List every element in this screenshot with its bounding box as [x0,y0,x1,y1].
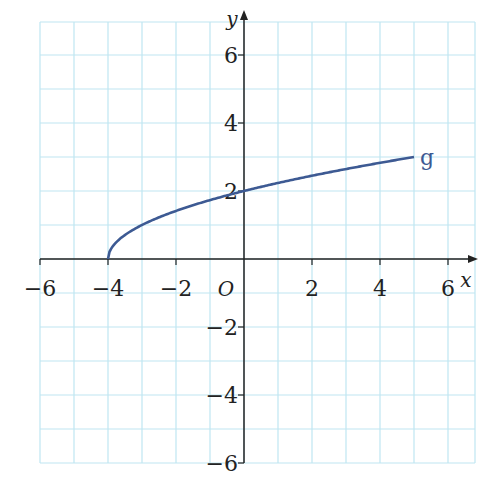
y-tick-label: −2 [206,315,238,340]
x-axis-arrow-icon [468,255,478,263]
y-tick-label: −6 [206,451,238,476]
origin-label: O [218,277,234,301]
y-tick-label: 4 [224,111,238,136]
y-tick-label: 6 [224,43,238,68]
y-axis-arrow-icon [240,10,248,20]
y-tick-label: −4 [206,383,238,408]
y-tick-label: 2 [224,179,238,204]
x-tick-label: 2 [305,276,319,301]
function-graph: −6−4−2246−6−4−2246Oxyg [0,0,483,485]
x-tick-label: −2 [160,276,192,301]
y-axis-label: y [225,7,238,31]
x-axis-label: x [460,268,471,292]
x-tick-label: −4 [92,276,124,301]
x-tick-label: 6 [441,276,455,301]
x-tick-label: −6 [24,276,56,301]
curve-label-g: g [420,145,434,170]
curve-g [108,157,414,259]
x-tick-label: 4 [373,276,387,301]
